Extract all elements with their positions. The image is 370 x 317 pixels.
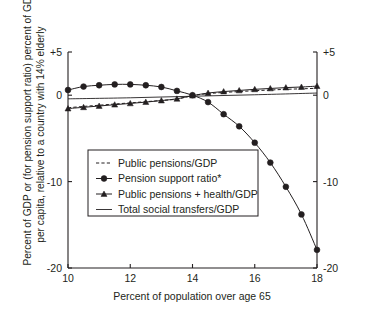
- legend-label: Total social transfers/GDP: [118, 203, 239, 215]
- legend-label: Public pensions + health/GDP: [118, 188, 258, 200]
- y-tick-label-left: -20: [47, 262, 62, 274]
- data-point-circle: [81, 84, 87, 90]
- y-tick-label-right: -10: [323, 176, 338, 188]
- data-point-circle: [252, 140, 258, 146]
- data-point-circle: [314, 247, 320, 253]
- x-tick-label: 12: [124, 272, 136, 284]
- y-tick-label-left: +5: [50, 46, 62, 58]
- y-tick-label-right: -20: [323, 262, 338, 274]
- data-point-circle: [283, 184, 289, 190]
- x-tick-label: 10: [62, 272, 74, 284]
- x-tick-label: 18: [311, 272, 323, 284]
- legend-marker-circle: [101, 176, 107, 182]
- plot-svg: 1012141618+5+500-10-10-20-20 Public pens…: [0, 0, 370, 317]
- x-tick-label: 14: [187, 272, 199, 284]
- y-tick-label-right: +5: [323, 46, 335, 58]
- x-axis-title: Percent of population over age 65: [113, 290, 271, 302]
- y-tick-label-left: 0: [56, 89, 62, 101]
- data-point-circle: [143, 82, 149, 88]
- legend-label: Pension support ratio*: [118, 172, 221, 184]
- data-point-circle: [65, 87, 71, 93]
- data-point-circle: [221, 111, 227, 117]
- y-tick-label-left: -10: [47, 176, 62, 188]
- y-tick-label-right: 0: [323, 89, 329, 101]
- data-point-circle: [96, 82, 102, 88]
- data-point-circle: [127, 82, 133, 88]
- data-point-circle: [205, 99, 211, 105]
- data-point-circle: [112, 82, 118, 88]
- data-point-circle: [158, 84, 164, 90]
- data-point-circle: [236, 123, 242, 129]
- data-point-circle: [299, 212, 305, 218]
- x-tick-label: 16: [249, 272, 261, 284]
- data-point-circle: [267, 160, 273, 166]
- chart-figure: Percent of GDP or (for pension support r…: [0, 0, 370, 317]
- data-point-circle: [174, 88, 180, 94]
- legend-label: Public pensions/GDP: [118, 157, 217, 169]
- legend: Public pensions/GDPPension support ratio…: [88, 150, 258, 216]
